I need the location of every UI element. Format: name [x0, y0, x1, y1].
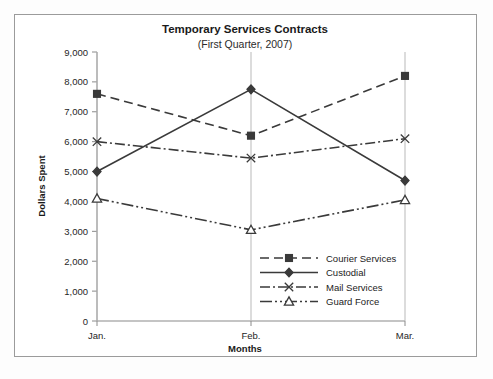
x-tick-label: Feb.: [241, 330, 260, 341]
data-point-square: [402, 73, 409, 80]
data-point-square: [94, 90, 101, 97]
line-chart: Temporary Services Contracts (First Quar…: [15, 15, 476, 356]
legend-label: Mail Services: [326, 282, 383, 293]
y-tick-label: 0: [83, 316, 88, 327]
legend-label: Guard Force: [326, 296, 379, 307]
chart-title: Temporary Services Contracts: [162, 23, 328, 35]
legend-label: Courier Services: [326, 253, 396, 264]
y-tick-label: 6,000: [64, 136, 88, 147]
legend-label: Custodial: [326, 267, 366, 278]
x-axis-ticks: Jan.Feb.Mar.: [88, 321, 414, 341]
x-tick-label: Mar.: [396, 330, 414, 341]
x-tick-label: Jan.: [88, 330, 106, 341]
data-point-diamond: [285, 268, 293, 277]
data-point-triangle: [400, 195, 409, 203]
y-tick-label: 8,000: [64, 76, 88, 87]
y-tick-label: 4,000: [64, 196, 88, 207]
page-background: Temporary Services Contracts (First Quar…: [0, 0, 493, 379]
chart-subtitle: (First Quarter, 2007): [198, 38, 293, 50]
chart-frame: Temporary Services Contracts (First Quar…: [14, 14, 477, 357]
chart-legend: Courier ServicesCustodialMail ServicesGu…: [260, 253, 396, 308]
y-tick-label: 3,000: [64, 226, 88, 237]
y-tick-label: 2,000: [64, 256, 88, 267]
y-tick-label: 9,000: [64, 47, 88, 58]
data-point-diamond: [247, 85, 255, 94]
y-tick-label: 7,000: [64, 106, 88, 117]
x-axis-title: Months: [228, 343, 262, 354]
data-point-square: [286, 255, 293, 262]
data-point-diamond: [401, 176, 409, 185]
data-point-diamond: [93, 167, 101, 176]
y-axis-title: Dollars Spent: [36, 155, 47, 217]
y-tick-label: 5,000: [64, 166, 88, 177]
y-axis-ticks: 01,0002,0003,0004,0005,0006,0007,0008,00…: [64, 47, 97, 327]
y-tick-label: 1,000: [64, 286, 88, 297]
data-point-square: [248, 132, 255, 139]
data-point-triangle: [92, 194, 101, 202]
